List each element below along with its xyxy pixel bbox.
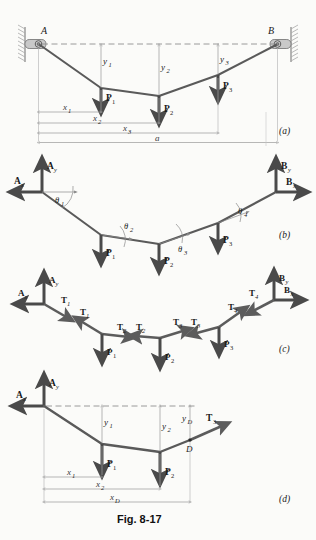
reaction-by-sub-b: y <box>287 166 291 173</box>
reaction-bx-sub-b: x <box>292 182 296 189</box>
angle-theta1-sub: 1 <box>61 200 64 207</box>
page-background <box>0 0 316 540</box>
reaction-by-label-c: B <box>279 273 285 283</box>
tension-t1a-sub: 1 <box>67 300 70 307</box>
sag-y1-label-d: y <box>103 417 108 427</box>
tension-t1b-sub: 1 <box>86 312 89 319</box>
support-b-label: B <box>268 25 274 36</box>
reaction-ay-sub-b: y <box>53 166 57 173</box>
sag-y1-sub-d: 1 <box>110 422 113 429</box>
panel-c-tag: (c) <box>279 344 290 355</box>
reaction-by-sub-c: y <box>285 278 289 285</box>
load-p3-sub-b: 3 <box>229 240 232 247</box>
reaction-bx-label-b: B <box>286 177 293 187</box>
load-p1-sub-c: 1 <box>113 352 116 359</box>
dist-x1-sub: 1 <box>68 107 71 114</box>
reaction-ay-label-d: A <box>49 378 56 388</box>
reaction-ay-label-b: A <box>47 161 54 171</box>
panel-a-tag: (a) <box>279 126 290 137</box>
angle-theta2-label: θ <box>124 221 128 231</box>
dist-x2-label: x <box>92 113 97 123</box>
tension-t3-label-d: T <box>206 413 213 423</box>
reaction-bx-label-c: B <box>284 285 290 295</box>
sag-y2-label: y <box>160 62 165 72</box>
dist-xd-label-d: x <box>109 492 114 502</box>
sag-y1-sub: 1 <box>109 61 112 68</box>
load-p1-sub-b: 1 <box>112 253 115 260</box>
dist-x3-label: x <box>122 123 127 133</box>
figure-svg: A B <box>0 0 316 540</box>
panel-b-tag: (b) <box>279 230 290 241</box>
reaction-by-label-b: B <box>281 161 288 171</box>
load-p3-sub-c: 3 <box>230 344 233 351</box>
support-a-label: A <box>40 25 48 36</box>
load-p1-sub: 1 <box>112 98 115 105</box>
reaction-ax-sub-c: x <box>24 293 28 300</box>
angle-theta1-label: θ <box>55 195 59 205</box>
load-p2-sub-c: 2 <box>171 357 174 364</box>
dist-x1-label-d: x <box>66 467 71 477</box>
reaction-ay-sub-d: y <box>55 383 59 390</box>
sag-y2-label-d: y <box>161 421 166 431</box>
reaction-bx-sub-c: x <box>290 290 294 297</box>
sag-y3-label: y <box>219 54 224 64</box>
load-p3-sub: 3 <box>229 86 232 93</box>
dist-x2-label-d: x <box>95 479 100 489</box>
figure-container: A B <box>0 0 316 540</box>
dist-x1-label: x <box>62 102 67 112</box>
reaction-ax-sub-d: x <box>22 395 26 402</box>
angle-theta4-label: θ <box>238 206 242 216</box>
sag-y1-label: y <box>102 56 107 66</box>
dist-a-label: a <box>155 133 160 143</box>
dist-x1-sub-d: 1 <box>72 472 75 479</box>
reaction-ay-sub-c: y <box>55 280 59 287</box>
load-p1-sub-d: 1 <box>113 464 116 471</box>
sag-yd-label-d: y <box>181 413 186 423</box>
angle-theta3-label: θ <box>178 244 182 254</box>
load-p2-sub: 2 <box>170 109 173 116</box>
panel-d-tag: (d) <box>279 494 290 505</box>
sag-yd-sub-d: D <box>187 418 193 425</box>
tension-t3-sub-d: 3 <box>213 418 216 425</box>
dist-xd-sub-d: D <box>114 497 120 504</box>
reaction-ax-label-d: A <box>16 390 23 400</box>
load-p2-sub-b: 2 <box>170 261 173 268</box>
figure-caption: Fig. 8-17 <box>117 513 162 525</box>
reaction-ax-sub-b: x <box>20 181 24 188</box>
load-p2-sub-d: 2 <box>171 472 174 479</box>
reaction-ax-label-b: A <box>14 176 21 186</box>
point-d-label: D <box>185 444 193 454</box>
